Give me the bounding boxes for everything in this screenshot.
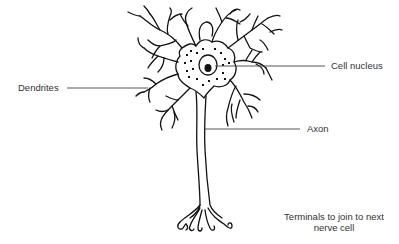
dendrites-label: Dendrites [18, 82, 59, 93]
terminals-label-line1: Terminals to join to next [272, 211, 396, 222]
terminals-label-line2: nerve cell [272, 222, 396, 233]
terminals-label: Terminals to join to next nerve cell [272, 211, 396, 233]
axon-right [205, 96, 222, 218]
cell-nucleus-label: Cell nucleus [331, 60, 383, 71]
axon-label: Axon [307, 123, 329, 134]
nucleolus [205, 64, 212, 72]
axon-left [190, 92, 200, 218]
neuron-diagram: Dendrites Cell nucleus Axon Terminals to… [0, 0, 399, 244]
neuron-illustration [0, 0, 399, 244]
